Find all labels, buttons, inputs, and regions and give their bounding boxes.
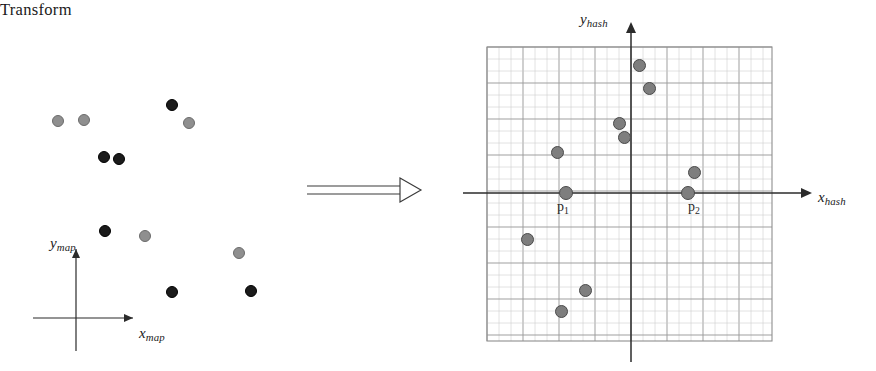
map-point-m1 xyxy=(52,115,64,127)
hash-point-h11 xyxy=(555,305,568,318)
hash-x-axis-arrowhead xyxy=(801,188,812,198)
hash-point-h4 xyxy=(618,131,631,144)
map-point-m10 xyxy=(166,286,178,298)
y-map-axis-label-subscript: map xyxy=(57,241,76,253)
point-p1-label-subscript: 1 xyxy=(564,205,569,216)
hash-point-h8 xyxy=(681,186,695,200)
transform-arrow xyxy=(307,178,421,202)
map-point-m6 xyxy=(113,153,125,165)
x-hash-axis-label: xhash xyxy=(818,190,846,207)
map-point-m5 xyxy=(98,151,110,163)
hash-point-h7 xyxy=(559,186,573,200)
x-hash-axis-label-base: x xyxy=(818,189,825,205)
y-hash-axis-label: yhash xyxy=(580,12,608,29)
map-point-m3 xyxy=(166,99,178,111)
x-map-axis-label: xmap xyxy=(139,326,165,343)
map-x-axis-arrowhead xyxy=(124,314,133,322)
map-point-m8 xyxy=(139,230,151,242)
hash-point-h5 xyxy=(551,146,564,159)
hash-point-h2 xyxy=(643,82,656,95)
y-map-axis-label-base: y xyxy=(50,235,57,251)
map-point-m7 xyxy=(99,225,111,237)
x-map-axis-label-subscript: map xyxy=(146,331,165,343)
hash-y-axis-arrowhead xyxy=(626,22,636,33)
map-space-axes xyxy=(33,249,133,351)
transform-label: Transform xyxy=(0,0,72,20)
hash-space-grid-border xyxy=(487,47,772,341)
point-p2-label-base: p xyxy=(688,199,695,214)
diagram-vector-layer xyxy=(0,0,876,371)
map-point-m11 xyxy=(245,285,257,297)
x-map-axis-label-base: x xyxy=(139,325,146,341)
map-point-m4 xyxy=(183,117,195,129)
point-p1-label-base: p xyxy=(557,199,564,214)
hash-point-h10 xyxy=(579,284,592,297)
y-hash-axis-label-subscript: hash xyxy=(587,17,608,29)
transform-diagram: Transform xmap ymap xhash yhash p1 p2 xyxy=(0,0,876,371)
hash-point-h6 xyxy=(688,166,701,179)
map-point-m2 xyxy=(78,114,90,126)
hash-point-h9 xyxy=(521,233,534,246)
map-point-m9 xyxy=(233,247,245,259)
y-hash-axis-label-base: y xyxy=(580,11,587,27)
point-p2-label-subscript: 2 xyxy=(695,205,700,216)
point-p2-label: p2 xyxy=(688,200,700,216)
hash-space-grid xyxy=(487,47,772,341)
y-map-axis-label: ymap xyxy=(50,236,76,253)
hash-point-h1 xyxy=(633,59,646,72)
x-hash-axis-label-subscript: hash xyxy=(825,195,846,207)
hash-point-h3 xyxy=(613,117,626,130)
point-p1-label: p1 xyxy=(557,200,569,216)
hash-space-axes xyxy=(463,22,812,362)
